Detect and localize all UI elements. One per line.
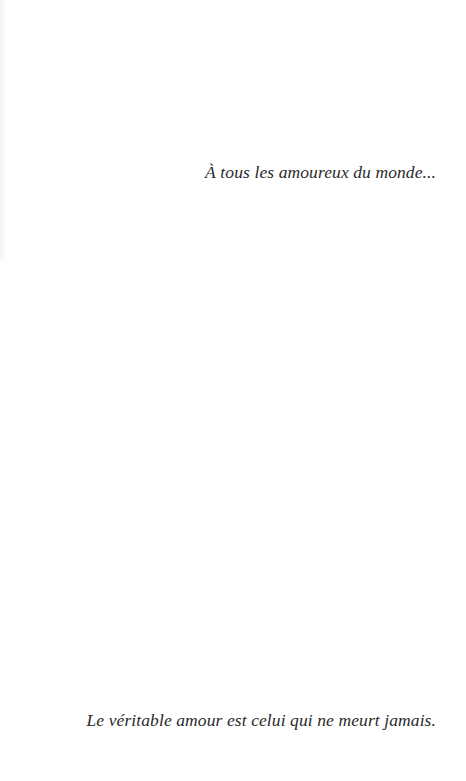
- dedication-text: À tous les amoureux du monde...: [205, 161, 436, 183]
- page-margin-shade: [0, 0, 6, 260]
- epigraph-text: Le véritable amour est celui qui ne meur…: [87, 709, 437, 731]
- book-page: À tous les amoureux du monde... Le vérit…: [0, 0, 466, 781]
